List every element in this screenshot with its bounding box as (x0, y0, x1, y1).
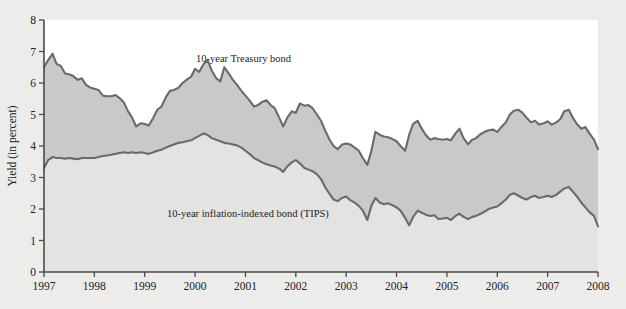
x-tick-label: 2001 (234, 280, 257, 292)
figure-container: 0123456781997199819992000200120022003200… (0, 0, 626, 309)
y-tick-label: 1 (30, 235, 36, 247)
x-tick-label: 2003 (335, 280, 358, 292)
x-tick-label: 2002 (284, 280, 307, 292)
x-tick-label: 2008 (587, 280, 610, 292)
y-tick-label: 7 (30, 46, 36, 58)
y-tick-label: 5 (30, 109, 36, 121)
yield-chart: 0123456781997199819992000200120022003200… (0, 0, 626, 309)
y-tick-label: 4 (30, 140, 36, 152)
x-tick-label: 1999 (133, 280, 156, 292)
x-tick-label: 2000 (184, 280, 207, 292)
series-label-tips: 10-year inflation-indexed bond (TIPS) (167, 208, 329, 220)
x-tick-label: 1998 (83, 280, 106, 292)
series-label-treasury: 10-year Treasury bond (196, 53, 292, 64)
x-tick-label: 2005 (435, 280, 458, 292)
x-tick-label: 2007 (536, 280, 559, 292)
y-tick-label: 8 (30, 14, 36, 26)
x-tick-label: 1997 (33, 280, 56, 292)
y-tick-label: 0 (30, 266, 36, 278)
plot-area: 0123456781997199819992000200120022003200… (6, 14, 610, 292)
y-tick-label: 3 (30, 172, 36, 184)
x-tick-label: 2004 (385, 280, 408, 292)
y-tick-label: 2 (30, 203, 36, 215)
x-tick-label: 2006 (486, 280, 509, 292)
y-tick-label: 6 (30, 77, 36, 89)
y-axis-title: Yield (in percent) (6, 105, 19, 186)
